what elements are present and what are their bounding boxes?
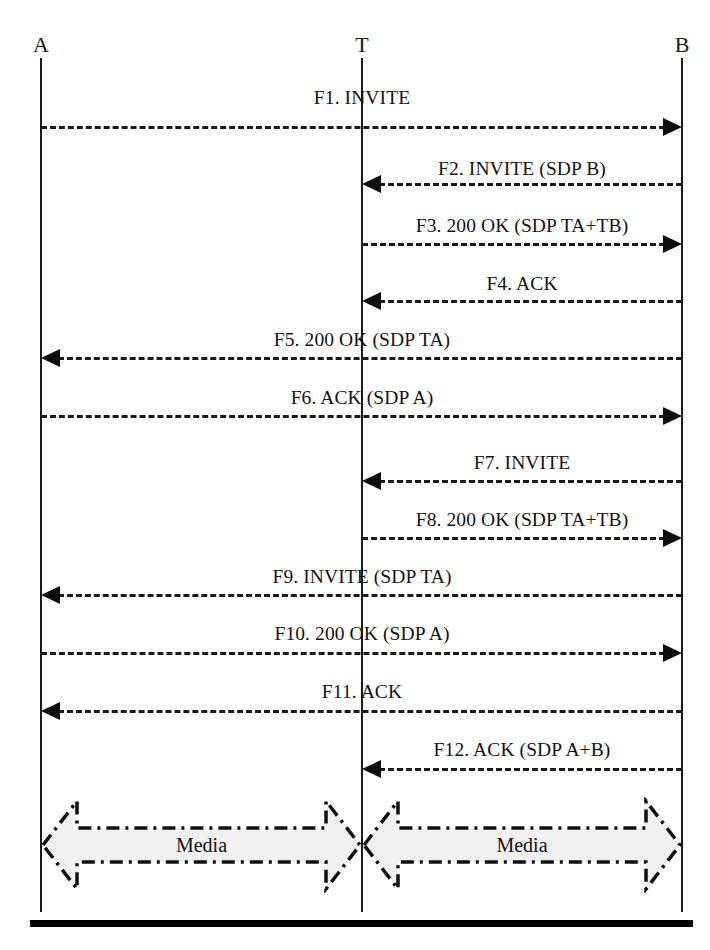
- message-label-f9: F9. INVITE (SDP TA): [272, 566, 451, 588]
- message-arrowhead-f12: [362, 760, 381, 778]
- message-label-f5: F5. 200 OK (SDP TA): [274, 329, 450, 351]
- message-label-f7: F7. INVITE: [474, 452, 570, 474]
- message-line-f8: [362, 537, 665, 540]
- participant-label-b: B: [675, 34, 690, 56]
- message-arrowhead-f10: [663, 644, 682, 662]
- message-arrowhead-f5: [41, 349, 60, 367]
- message-label-f6: F6. ACK (SDP A): [291, 387, 434, 409]
- message-label-f10: F10. 200 OK (SDP A): [274, 623, 449, 645]
- message-arrowhead-f2: [362, 175, 381, 193]
- participant-label-a: A: [33, 34, 49, 56]
- participant-label-t: T: [355, 34, 368, 56]
- message-line-f4: [379, 300, 682, 303]
- message-arrowhead-f9: [41, 586, 60, 604]
- message-label-f2: F2. INVITE (SDP B): [438, 158, 606, 180]
- message-line-f10: [41, 652, 665, 655]
- message-line-f5: [58, 357, 682, 360]
- lifeline-b: [681, 58, 683, 912]
- message-arrowhead-f1: [663, 118, 682, 136]
- message-label-f1: F1. INVITE: [314, 87, 410, 109]
- message-arrowhead-f6: [663, 407, 682, 425]
- message-arrowhead-f4: [362, 292, 381, 310]
- message-line-f1: [41, 126, 665, 129]
- message-line-f7: [379, 480, 682, 483]
- message-line-f11: [58, 710, 682, 713]
- media-flow-label: Media: [496, 835, 547, 855]
- message-line-f12: [379, 768, 682, 771]
- message-line-f2: [379, 183, 682, 186]
- bottom-divider-rule: [30, 920, 693, 927]
- message-arrowhead-f11: [41, 702, 60, 720]
- message-label-f12: F12. ACK (SDP A+B): [434, 739, 611, 761]
- message-arrowhead-f7: [362, 472, 381, 490]
- message-label-f8: F8. 200 OK (SDP TA+TB): [416, 509, 629, 531]
- message-label-f11: F11. ACK: [322, 681, 402, 703]
- message-label-f4: F4. ACK: [486, 273, 557, 295]
- message-label-f3: F3. 200 OK (SDP TA+TB): [416, 215, 629, 237]
- message-line-f3: [362, 243, 665, 246]
- message-arrowhead-f3: [663, 235, 682, 253]
- media-flow-right: Media: [362, 797, 682, 893]
- sequence-diagram: ATB F1. INVITEF2. INVITE (SDP B)F3. 200 …: [0, 0, 710, 950]
- message-line-f9: [58, 594, 682, 597]
- media-flow-left: Media: [41, 797, 362, 893]
- message-arrowhead-f8: [663, 529, 682, 547]
- lifeline-a: [40, 58, 42, 912]
- message-line-f6: [41, 415, 665, 418]
- media-flow-label: Media: [176, 835, 227, 855]
